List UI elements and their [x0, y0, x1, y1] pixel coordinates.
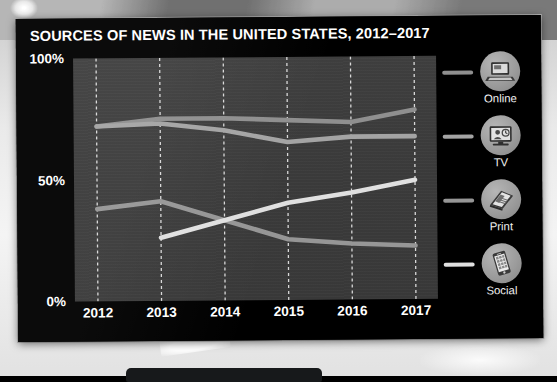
- x-axis-tick-2016: 2016: [337, 303, 367, 318]
- gridline-2014: [223, 57, 225, 300]
- television-icon: [481, 115, 521, 155]
- legend-item-social[interactable]: Social: [442, 243, 538, 308]
- x-axis-tick-2015: 2015: [274, 304, 304, 319]
- monitor-display: SOURCES OF NEWS IN THE UNITED STATES, 20…: [16, 15, 544, 342]
- gridline-2016: [350, 56, 352, 299]
- chart-title: SOURCES OF NEWS IN THE UNITED STATES, 20…: [30, 25, 430, 44]
- y-axis-tick-0: 0%: [46, 294, 73, 309]
- gridline-2012: [96, 58, 98, 301]
- y-axis-tick-50: 50%: [38, 173, 72, 188]
- x-axis-tick-2012: 2012: [83, 305, 113, 320]
- smartphone-icon: [482, 243, 522, 283]
- x-axis-tick-2017: 2017: [401, 303, 431, 318]
- legend-swatch-online: [442, 70, 473, 74]
- series-line-tv: [97, 122, 415, 144]
- legend-item-online[interactable]: Online: [440, 51, 536, 116]
- legend-swatch-social: [444, 262, 475, 266]
- desk-glare-secondary: [420, 345, 540, 375]
- screen-content: SOURCES OF NEWS IN THE UNITED STATES, 20…: [16, 15, 544, 342]
- plot-area-wrapper: 100%50%0% 201220132014201520162017: [73, 56, 438, 302]
- gridline-2015: [287, 57, 289, 300]
- monitor-stand: [126, 368, 322, 382]
- chart-lines-svg: [73, 56, 438, 302]
- newspaper-icon: [481, 179, 521, 219]
- laptop-icon: [480, 51, 520, 91]
- x-axis-tick-2014: 2014: [210, 304, 240, 319]
- series-line-print: [97, 199, 415, 248]
- legend-item-tv[interactable]: TV: [441, 115, 537, 180]
- legend-label-online: Online: [480, 92, 520, 104]
- y-axis-tick-100: 100%: [29, 51, 71, 66]
- legend-item-print[interactable]: Print: [441, 179, 537, 244]
- legend-swatch-tv: [443, 134, 474, 138]
- legend-swatch-print: [443, 198, 474, 202]
- x-axis-tick-2013: 2013: [146, 305, 176, 320]
- chart-legend: OnlineTVPrintSocial: [440, 51, 538, 308]
- legend-label-tv: TV: [481, 156, 521, 168]
- gridline-2013: [160, 58, 162, 301]
- gridline-2017: [414, 56, 416, 299]
- legend-label-social: Social: [482, 284, 522, 296]
- legend-label-print: Print: [481, 220, 521, 232]
